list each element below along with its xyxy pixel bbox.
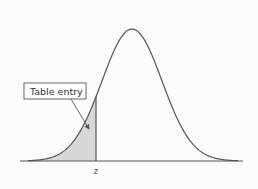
z-axis-label: z (93, 166, 99, 176)
callout-arrow (71, 99, 89, 129)
normal-curve-diagram: z Table entry (0, 0, 258, 189)
normal-distribution-figure: z Table entry (0, 0, 258, 189)
callout-label: Table entry (29, 86, 83, 97)
shaded-area-left-of-z (28, 97, 96, 161)
